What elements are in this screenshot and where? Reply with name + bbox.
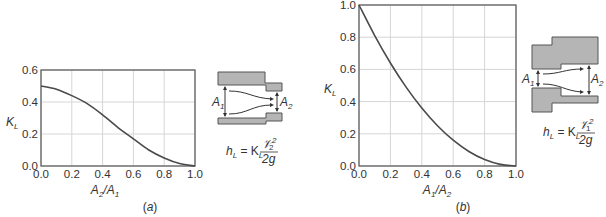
y-tick-label: 0.2 [22,128,38,140]
x-tick-label: 0.2 [382,168,398,180]
svg-text:hL = KL: hL = KL [543,125,580,141]
chart-a-frame [41,70,195,166]
lower-wall [218,113,282,124]
area-a1-label-b: A1 [521,72,534,88]
formula-b: hL = KL 𝒱2 1 2g [543,117,595,147]
y-tick-label: 0.0 [22,160,38,172]
chart-a-xlabel: A2/A1 [90,183,119,199]
area-a1-label: A1 [211,95,224,111]
y-tick-label: 0.2 [340,128,356,140]
x-tick-label: 0.6 [445,168,461,180]
svg-text:2g: 2g [261,152,276,166]
y-tick-label: 0.6 [340,63,356,75]
chart-a-ylabel: KL [6,115,18,131]
chart-a-contraction: 0.00.20.40.60.81.00.00.20.40.6 KL A2/A1 … [6,64,203,214]
figure: 0.00.20.40.60.81.00.00.20.40.6 KL A2/A1 … [0,0,606,217]
chart-b-ticks: 0.00.20.40.60.81.00.00.20.40.60.81.0 [340,0,524,180]
x-tick-label: 0.8 [477,168,493,180]
x-tick-label: 0.4 [95,168,112,180]
chart-a-caption: (a) [143,200,158,214]
x-tick-label: 0.8 [156,168,172,180]
expansion-diagram: A1 A2 hL = KL 𝒱2 1 2g [521,37,604,147]
x-tick-label: 0.4 [414,168,431,180]
x-tick-label: 0.2 [64,168,80,180]
y-tick-label: 1.0 [340,0,356,11]
svg-text:2g: 2g [578,133,593,147]
y-tick-label: 0.8 [340,31,356,43]
upper-wall-b [532,37,598,69]
svg-text:hL = KL: hL = KL [226,144,263,160]
x-tick-label: 1.0 [187,168,203,180]
chart-b-caption: (b) [456,200,471,214]
svg-text:2: 2 [269,143,274,152]
x-tick-label: 0.6 [125,168,141,180]
chart-b-curve [359,5,516,166]
y-tick-label: 0.4 [340,96,357,108]
chart-a-grid [41,70,195,166]
chart-b-grid [359,5,516,166]
y-tick-label: 0.6 [22,64,38,76]
chart-a-curve [41,86,195,166]
chart-b-frame [359,5,516,166]
chart-b-expansion: 0.00.20.40.60.81.00.00.20.40.60.81.0 KL … [324,0,524,214]
y-tick-label: 0.0 [340,160,356,172]
svg-text:1: 1 [586,124,591,133]
contraction-diagram: A1 A2 hL = KL 𝒱2 2 2g [211,72,293,166]
upper-wall [218,72,282,91]
area-a2-label-b: A2 [590,72,604,88]
chart-b-ylabel: KL [324,82,336,98]
chart-b-xlabel: A1/A2 [422,183,452,199]
y-tick-label: 0.4 [22,96,39,108]
formula-a: hL = KL 𝒱2 2 2g [226,136,278,166]
x-tick-label: 1.0 [508,168,524,180]
area-a2-label: A2 [279,95,293,111]
